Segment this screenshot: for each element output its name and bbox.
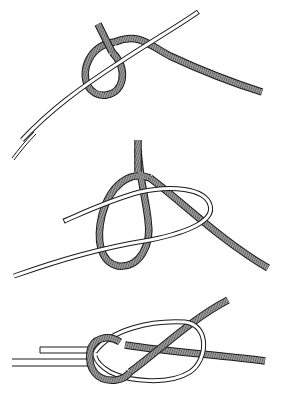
plain-rope	[12, 347, 92, 366]
step-1-knot: Step 1: loop formed in hatched rope arou…	[22, 10, 262, 140]
hatched-rope	[99, 150, 268, 268]
knot-diagram: Figure-eight (Flemish) bend tying sequen…	[0, 0, 282, 394]
step-3-knot: Step 3: finished knot, ends pulled tight	[12, 300, 265, 381]
plain-rope	[22, 10, 200, 140]
hatched-rope	[125, 300, 265, 372]
step-2-knot: Step 2: plain rope end threaded through …	[12, 132, 268, 276]
knot-illustration: Step 1: loop formed in hatched rope arou…	[0, 0, 282, 394]
